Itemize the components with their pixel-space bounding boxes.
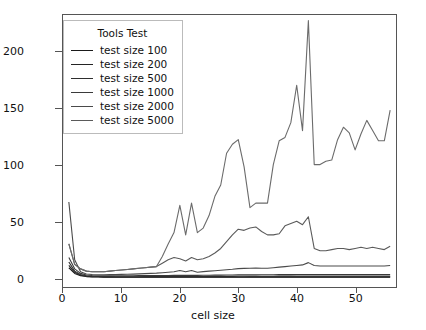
- y-axis-tick-mark: [55, 108, 62, 109]
- legend-swatch: [71, 64, 93, 65]
- y-axis-tick-mark: [55, 165, 62, 166]
- x-axis-tick-mark: [297, 288, 298, 293]
- x-axis-tick-label: 50: [349, 292, 363, 305]
- x-axis-tick-label: 30: [231, 292, 245, 305]
- legend-label: test size 5000: [100, 114, 174, 126]
- x-axis-tick-mark: [180, 288, 181, 293]
- figure: execution time [s] cell size Tools Test …: [0, 0, 426, 330]
- y-axis-tick-label: 200: [3, 44, 24, 57]
- legend-item[interactable]: test size 5000: [71, 113, 174, 127]
- legend-swatch: [71, 120, 93, 121]
- legend-label: test size 100: [100, 44, 167, 56]
- legend-swatch: [71, 78, 93, 79]
- y-axis-tick-mark: [55, 279, 62, 280]
- legend-label: test size 1000: [100, 86, 174, 98]
- legend-items: test size 100test size 200test size 500t…: [71, 43, 174, 127]
- y-axis-tick-mark: [55, 51, 62, 52]
- legend-title: Tools Test: [71, 27, 174, 39]
- x-axis-tick-label: 0: [59, 292, 66, 305]
- legend-swatch: [71, 50, 93, 51]
- x-axis-tick-mark: [356, 288, 357, 293]
- legend-item[interactable]: test size 2000: [71, 99, 174, 113]
- y-axis-tick-mark: [55, 222, 62, 223]
- legend-label: test size 2000: [100, 100, 174, 112]
- y-axis-tick-label: 100: [3, 158, 24, 171]
- x-axis-tick-label: 40: [290, 292, 304, 305]
- y-axis-tick-label: 50: [10, 215, 24, 228]
- legend-swatch: [71, 92, 93, 93]
- y-axis-tick-label: 0: [17, 272, 24, 285]
- series-line: [69, 217, 390, 272]
- x-axis-tick-label: 10: [114, 292, 128, 305]
- legend-item[interactable]: test size 500: [71, 71, 174, 85]
- legend-label: test size 500: [100, 72, 167, 84]
- x-axis-tick-mark: [62, 288, 63, 293]
- y-axis-tick-label: 150: [3, 101, 24, 114]
- x-axis-tick-label: 20: [173, 292, 187, 305]
- legend: Tools Test test size 100test size 200tes…: [63, 20, 183, 134]
- legend-swatch: [71, 106, 93, 107]
- legend-label: test size 200: [100, 58, 167, 70]
- series-line: [69, 258, 390, 276]
- x-axis-label: cell size: [0, 309, 426, 322]
- legend-item[interactable]: test size 200: [71, 57, 174, 71]
- x-axis-tick-mark: [238, 288, 239, 293]
- legend-item[interactable]: test size 100: [71, 43, 174, 57]
- legend-item[interactable]: test size 1000: [71, 85, 174, 99]
- x-axis-tick-mark: [121, 288, 122, 293]
